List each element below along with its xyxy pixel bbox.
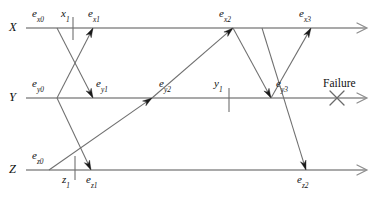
axis-label-y: Y (9, 91, 16, 104)
message-arrowhead (143, 98, 152, 106)
message-line-m3 (57, 98, 91, 169)
failure-label: Failure (323, 78, 356, 90)
event-label-ez1: ez1 (86, 174, 97, 185)
event-label-ey1: ey1 (96, 78, 108, 89)
axis-label-z: Z (9, 163, 16, 176)
event-label-ey0: ey0 (32, 78, 44, 89)
message-arrowhead (84, 160, 91, 170)
timeline-diagram: XYZex0ex1ex2ex3ey0ey1ey2ey3ez0ez1ez2x1y1… (0, 0, 383, 201)
event-label-ex0: ex0 (32, 8, 44, 19)
event-label-ey3: ey3 (276, 78, 288, 89)
tick-label-z1: z1 (62, 174, 70, 185)
tick-label-x1: x1 (61, 8, 70, 19)
message-arrowhead (304, 28, 311, 38)
message-arrowhead (264, 88, 271, 98)
event-label-ex2: ex2 (219, 8, 231, 19)
event-label-ex1: ex1 (88, 8, 100, 19)
event-label-ey2: ey2 (159, 78, 171, 89)
diagram-canvas (0, 0, 383, 201)
message-arrowhead (86, 88, 93, 98)
event-label-ex3: ex3 (299, 8, 311, 19)
axes-group (26, 23, 367, 175)
event-label-ez2: ez2 (297, 174, 308, 185)
messages-group (49, 28, 311, 170)
message-arrowhead (86, 28, 93, 38)
tick-label-y1: y1 (214, 78, 223, 89)
event-label-ez0: ez0 (32, 150, 43, 161)
axis-label-x: X (9, 21, 17, 34)
message-line-m4 (49, 99, 151, 170)
